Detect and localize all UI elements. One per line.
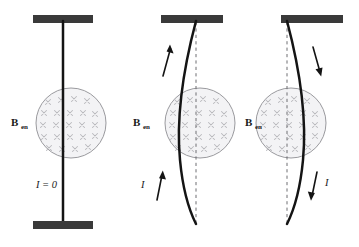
current-label: I (324, 177, 329, 188)
bottom-support-bracket (33, 221, 93, 229)
magnetic-field-region (256, 88, 326, 158)
field-label-main: B (133, 116, 141, 128)
top-support-bracket (161, 15, 223, 23)
top-support-bracket (281, 15, 343, 23)
current-label: I = 0 (35, 179, 58, 190)
current-label: I (140, 179, 145, 190)
field-label-subscript: en (255, 123, 262, 131)
magnetic-field-region (36, 88, 106, 158)
field-label-subscript: en (143, 123, 150, 131)
field-label-main: B (245, 116, 253, 128)
field-label-subscript: en (21, 123, 28, 131)
magnetic-field-region (165, 88, 235, 158)
physics-figure: B en I = 0 (0, 0, 359, 247)
field-label-main: B (11, 116, 19, 128)
